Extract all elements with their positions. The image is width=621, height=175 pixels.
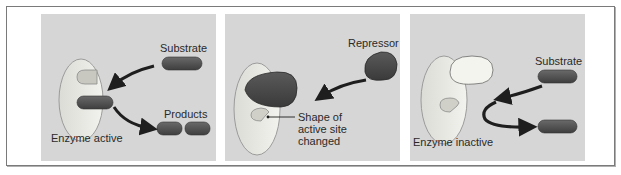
products-label: Products: [164, 108, 207, 120]
repressor-shape: [365, 52, 397, 80]
arrow-substrate-rejected: [484, 102, 528, 127]
arrow-in: [114, 66, 154, 85]
enzyme-shape: [421, 56, 493, 144]
substrate-label: Substrate: [535, 55, 582, 67]
repressor-label: Repressor: [348, 37, 399, 49]
product-capsule-2: [185, 122, 210, 135]
substrate-label: Substrate: [160, 42, 207, 54]
substrate-capsule: [538, 70, 577, 83]
arrow-out: [114, 107, 149, 128]
bound-substrate: [77, 96, 113, 109]
arrow-substrate-in: [502, 86, 542, 98]
panel-enzyme-inactive: Substrate Enzyme inactive: [410, 14, 585, 161]
arrow-repressor-in: [322, 80, 366, 96]
annotation-line-1: Shape of: [298, 111, 347, 123]
substrate-capsule: [162, 57, 202, 70]
bound-repressor-light: [450, 56, 493, 84]
panel-enzyme-active: Substrate Products Enzyme active: [41, 14, 216, 161]
annotation-line-2: active site: [298, 123, 347, 135]
caption-enzyme-active: Enzyme active: [51, 132, 123, 144]
annotation-line-3: changed: [298, 135, 347, 147]
rejected-substrate-capsule: [538, 120, 577, 133]
panel-repressor-binding: Repressor Shape of active site changed: [225, 14, 400, 161]
annotation-text: Shape of active site changed: [298, 111, 347, 147]
caption-enzyme-inactive: Enzyme inactive: [413, 136, 493, 148]
product-capsule-1: [157, 122, 182, 135]
